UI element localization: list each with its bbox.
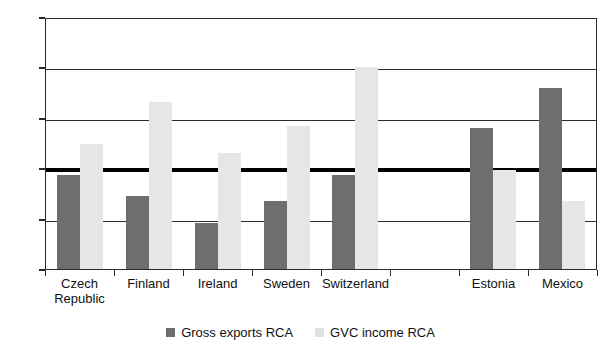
bar — [195, 223, 218, 269]
x-axis-label: Czech Republic — [45, 274, 114, 318]
chart-legend: Gross exports RCAGVC income RCA — [0, 325, 601, 340]
bar — [562, 201, 585, 269]
bar-groups — [46, 19, 596, 269]
bar-chart: 0.00.51.01.52.02.5 Czech RepublicFinland… — [0, 0, 601, 347]
bar-group — [527, 19, 596, 269]
x-axis-label: Switzerland — [321, 274, 390, 318]
x-axis-label: Estonia — [459, 274, 528, 318]
bar — [218, 153, 241, 269]
y-tick-mark — [39, 17, 45, 19]
plot-area — [45, 18, 597, 270]
x-axis-label: Mexico — [528, 274, 597, 318]
legend-label: Gross exports RCA — [181, 325, 293, 340]
bar — [80, 144, 103, 269]
legend-item: GVC income RCA — [315, 325, 435, 340]
bar — [57, 175, 80, 269]
y-tick-mark — [39, 168, 45, 170]
bar — [149, 102, 172, 269]
y-tick-mark — [39, 219, 45, 221]
bar — [539, 88, 562, 269]
bar — [287, 126, 310, 269]
bar-group — [459, 19, 528, 269]
x-axis-labels: Czech RepublicFinlandIrelandSwedenSwitze… — [45, 274, 597, 318]
x-tick-mark — [597, 270, 598, 276]
bar — [493, 170, 516, 269]
bar — [264, 201, 287, 269]
x-axis-label — [390, 274, 459, 318]
bar — [355, 67, 378, 269]
x-axis-label: Ireland — [183, 274, 252, 318]
legend-swatch-icon — [166, 328, 175, 337]
bar-group — [321, 19, 390, 269]
bar-group — [46, 19, 115, 269]
bar-group — [184, 19, 253, 269]
legend-item: Gross exports RCA — [166, 325, 293, 340]
bar — [470, 128, 493, 269]
x-axis-label: Finland — [114, 274, 183, 318]
bar-group — [252, 19, 321, 269]
bar-group — [115, 19, 184, 269]
y-tick-mark — [39, 118, 45, 120]
bar — [332, 175, 355, 269]
bar-group — [390, 19, 459, 269]
y-tick-mark — [39, 67, 45, 69]
bar — [126, 196, 149, 269]
legend-swatch-icon — [315, 328, 324, 337]
x-axis-label: Sweden — [252, 274, 321, 318]
legend-label: GVC income RCA — [330, 325, 435, 340]
